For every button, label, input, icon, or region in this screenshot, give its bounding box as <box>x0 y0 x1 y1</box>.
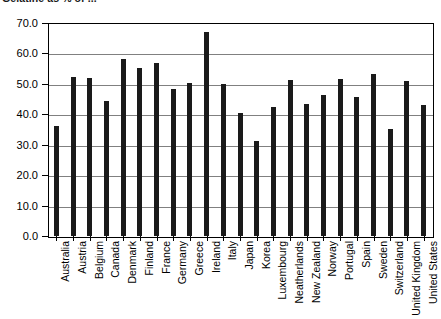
x-tick-label: Sweden <box>378 241 389 279</box>
y-tick-label: 60.0 <box>17 48 38 59</box>
x-tick-label: Canada <box>110 241 121 278</box>
x-tick-label: Belgium <box>94 241 105 279</box>
bar <box>338 79 343 236</box>
x-tick-label: Korea <box>261 241 272 269</box>
x-tick-label: Luxembourg <box>277 241 288 299</box>
x-tick-label: United Kingdom <box>411 241 422 316</box>
bar <box>254 141 259 236</box>
bar <box>71 77 76 236</box>
y-tick-label: 70.0 <box>17 18 38 29</box>
y-tick-label: 50.0 <box>17 78 38 89</box>
x-tick-label: Denmark <box>127 241 138 284</box>
bar <box>371 74 376 236</box>
bar <box>137 68 142 236</box>
bar <box>404 81 409 236</box>
y-tick-label: 40.0 <box>17 109 38 120</box>
bar <box>171 89 176 236</box>
bar-chart: Gelatine as % of ... 0.010.020.030.040.0… <box>0 0 441 319</box>
bar <box>354 97 359 236</box>
y-tick-label: 30.0 <box>17 139 38 150</box>
bar <box>221 84 226 236</box>
x-tick-label: Switzerland <box>394 241 405 295</box>
bars-layer <box>48 23 432 236</box>
bar <box>54 126 59 236</box>
bar <box>87 78 92 236</box>
x-tick-label: Ireland <box>211 241 222 273</box>
x-tick-label: Japan <box>244 241 255 270</box>
bar <box>321 95 326 236</box>
bar <box>388 129 393 236</box>
x-tick-label: Spain <box>361 241 372 268</box>
x-tick-label: Neatherlands <box>294 241 305 303</box>
x-tick-label: United States <box>428 241 439 304</box>
x-tick-label: Portugal <box>344 241 355 280</box>
x-tick-label: Finland <box>144 241 155 275</box>
x-tick-label: Norway <box>327 241 338 277</box>
bar <box>121 59 126 236</box>
x-tick-label: Australia <box>60 241 71 282</box>
bar <box>187 83 192 236</box>
bar <box>154 63 159 236</box>
x-tick-label: Germany <box>177 241 188 284</box>
x-tick-label: Austria <box>77 241 88 274</box>
bar <box>421 105 426 236</box>
x-tick-label: Greece <box>194 241 205 275</box>
x-tick-label: New Zealand <box>311 241 322 303</box>
y-axis: 0.010.020.030.040.050.060.070.0 <box>0 23 44 237</box>
bar <box>304 104 309 236</box>
chart-title: Gelatine as % of ... <box>2 0 302 4</box>
bar <box>288 80 293 236</box>
x-tick-label: Italy <box>227 241 238 260</box>
y-tick-label: 0.0 <box>23 231 38 242</box>
bar <box>271 107 276 236</box>
bar <box>204 32 209 236</box>
bar <box>104 101 109 236</box>
y-tick-label: 10.0 <box>17 200 38 211</box>
bar <box>238 113 243 236</box>
x-tick-label: France <box>161 241 172 274</box>
y-tick-label: 20.0 <box>17 170 38 181</box>
x-axis: AustraliaAustriaBelgiumCanadaDenmarkFinl… <box>48 241 438 319</box>
